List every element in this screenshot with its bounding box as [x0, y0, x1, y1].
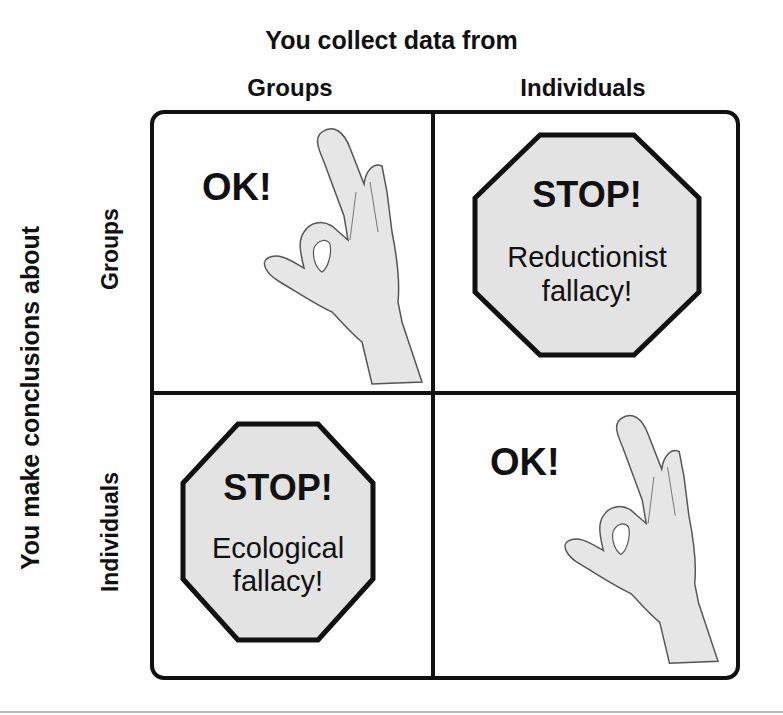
stop-title: STOP!: [472, 174, 702, 216]
top-axis-title: You collect data from: [0, 26, 783, 55]
bottom-edge-line: [0, 711, 783, 713]
cell-groups-individuals: STOP! Reductionist fallacy!: [435, 114, 738, 391]
cell-groups-groups: OK!: [152, 114, 431, 391]
stop-title: STOP!: [180, 467, 376, 509]
fallacy-name: Reductionist: [472, 241, 702, 273]
column-label-groups: Groups: [150, 74, 430, 102]
cell-individuals-groups: STOP! Ecological fallacy!: [152, 395, 431, 678]
ok-label: OK!: [490, 441, 560, 484]
ok-hand-icon: [553, 405, 718, 670]
ok-hand-icon: [252, 122, 422, 387]
fallacy-name: Ecological: [180, 532, 376, 564]
fallacy-suffix: fallacy!: [472, 275, 702, 307]
left-axis-title: You make conclusions about: [15, 230, 45, 570]
row-label-groups: Groups: [96, 179, 124, 319]
fallacy-suffix: fallacy!: [180, 565, 376, 597]
column-label-individuals: Individuals: [443, 74, 723, 102]
cell-individuals-individuals: OK!: [435, 395, 738, 678]
row-label-individuals: Individuals: [96, 462, 124, 602]
